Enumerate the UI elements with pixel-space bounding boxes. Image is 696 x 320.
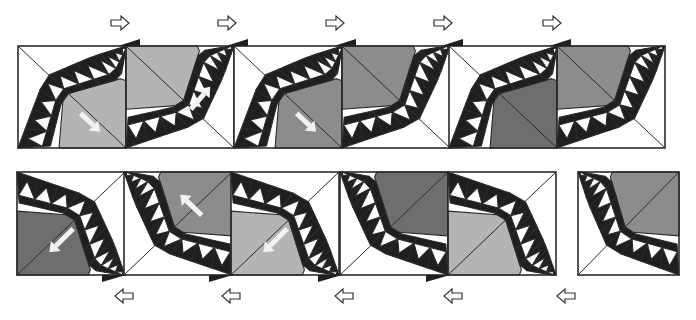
seam-tab — [318, 275, 342, 282]
quilt-block-2-2 — [124, 172, 232, 275]
quilt-block-2-5 — [448, 172, 556, 275]
seam-tab — [441, 39, 463, 46]
quilt-block-1-3 — [234, 46, 342, 148]
seam-tab — [426, 275, 450, 282]
quilt-assembly-diagram — [0, 0, 696, 320]
seam-tabs — [118, 39, 571, 46]
seam-tab — [549, 39, 571, 46]
press-left-arrow-icon — [557, 289, 575, 303]
seam-tab — [209, 275, 233, 282]
quilt-block-1-5 — [449, 46, 557, 148]
seam-tab — [118, 39, 140, 46]
seam-tab — [334, 39, 356, 46]
press-left-arrow-icon — [115, 289, 133, 303]
press-left-arrow-icon — [444, 289, 462, 303]
row-1 — [18, 39, 665, 148]
row-2 — [17, 172, 679, 282]
seam-tab — [102, 275, 126, 282]
seam-tab — [226, 39, 248, 46]
quilt-block-1-6 — [557, 46, 665, 148]
quilt-block-2-6 — [578, 172, 679, 275]
press-left-arrow-icon — [335, 289, 353, 303]
quilt-block-1-2 — [126, 46, 234, 148]
press-right-arrow-icon — [434, 16, 452, 30]
press-left-arrow-icon — [222, 289, 240, 303]
press-right-arrow-icon — [111, 16, 129, 30]
quilt-block-2-1 — [17, 172, 125, 275]
seam-tabs — [102, 275, 450, 282]
quilt-block-1-1 — [18, 46, 126, 148]
press-right-arrow-icon — [326, 16, 344, 30]
quilt-block-2-4 — [340, 172, 448, 275]
press-right-arrow-icon — [218, 16, 236, 30]
quilt-block-1-4 — [342, 46, 450, 148]
quilt-block-2-3 — [231, 172, 339, 275]
press-right-arrow-icon — [543, 16, 561, 30]
